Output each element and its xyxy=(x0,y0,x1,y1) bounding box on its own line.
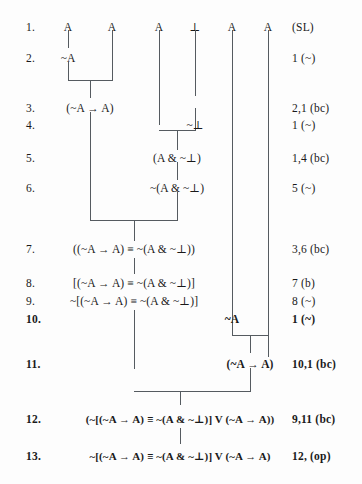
formula-10: ~A xyxy=(225,310,240,328)
formula-4: ~⊥ xyxy=(186,116,203,134)
line-number-1: 1. xyxy=(26,18,52,36)
proof-line-11: 11. (~A → A) 10,1 (bc) xyxy=(0,355,362,373)
justification-6: 5 (~) xyxy=(292,179,316,197)
formula-12: (~[(~A → A) ≡ ~(A & ~⊥)] V (~A → A)) xyxy=(86,410,275,428)
proof-line-7: 7. ((~A → A) ≡ ~(A & ~⊥)) 3,6 (bc) xyxy=(0,240,362,258)
formula-7: ((~A → A) ≡ ~(A & ~⊥)) xyxy=(73,240,195,258)
wire-l12-down xyxy=(180,391,181,405)
justification-11: 10,1 (bc) xyxy=(292,355,336,373)
line-number-13: 13. xyxy=(26,447,52,465)
formula-5: (A & ~⊥) xyxy=(153,149,201,167)
justification-2: 1 (~) xyxy=(292,49,316,67)
line-number-9: 9. xyxy=(26,292,52,310)
justification-10: 1 (~) xyxy=(292,310,315,328)
line-number-7: 7. xyxy=(26,240,52,258)
proof-line-10: 10. ~A 1 (~) xyxy=(0,310,362,328)
line-number-10: 10. xyxy=(26,310,52,328)
proof-line-6: 6. ~(A & ~⊥) 5 (~) xyxy=(0,179,362,197)
justification-3: 2,1 (bc) xyxy=(292,99,329,117)
line-number-12: 12. xyxy=(26,410,52,428)
justification-1: (SL) xyxy=(292,18,314,36)
formula-8: [(~A → A) ≡ ~(A & ~⊥)] xyxy=(73,274,195,292)
proof-line-1: 1. A A A ⊥ A A (SL) xyxy=(0,18,362,36)
wire-col1-stub xyxy=(68,30,69,48)
justification-9: 8 (~) xyxy=(292,292,316,310)
formula-9: ~[(~A → A) ≡ ~(A & ~⊥)] xyxy=(70,292,198,310)
wire-l12-to-l13 xyxy=(180,428,181,444)
proof-line-4: 4. ~⊥ 1 (~) xyxy=(0,116,362,134)
line-number-6: 6. xyxy=(26,179,52,197)
line-number-8: 8. xyxy=(26,274,52,292)
line-number-5: 5. xyxy=(26,149,52,167)
formula-6: ~(A & ~⊥) xyxy=(150,179,204,197)
justification-7: 3,6 (bc) xyxy=(292,240,329,258)
wire-l7-to-l8 xyxy=(134,258,135,274)
wire-join-l12 xyxy=(134,391,251,392)
proof-line-8: 8. [(~A → A) ≡ ~(A & ~⊥)] 7 (b) xyxy=(0,274,362,292)
line-number-2: 2. xyxy=(26,49,52,67)
line-number-11: 11. xyxy=(26,355,52,373)
proof-line-5: 5. (A & ~⊥) 1,4 (bc) xyxy=(0,149,362,167)
line-number-4: 4. xyxy=(26,116,52,134)
formula-2: ~A xyxy=(61,49,76,67)
line-number-3: 3. xyxy=(26,99,52,117)
wire-l11-down xyxy=(250,335,251,353)
proof-line-2: 2. ~A 1 (~) xyxy=(0,49,362,67)
proof-line-9: 9. ~[(~A → A) ≡ ~(A & ~⊥)] 8 (~) xyxy=(0,292,362,310)
proof-line-13: 13. ~[(~A → A) ≡ ~(A & ~⊥)] V (~A → A) 1… xyxy=(0,447,362,465)
justification-12: 9,11 (bc) xyxy=(292,410,335,428)
formula-13: ~[(~A → A) ≡ ~(A & ~⊥)] V (~A → A) xyxy=(89,447,270,465)
formula-3: (~A → A) xyxy=(66,99,113,117)
justification-5: 1,4 (bc) xyxy=(292,149,329,167)
justification-8: 7 (b) xyxy=(292,274,315,292)
proof-line-12: 12. (~[(~A → A) ≡ ~(A & ~⊥)] V (~A → A))… xyxy=(0,410,362,428)
wire-l3-down xyxy=(90,80,91,98)
wire-l7-down xyxy=(134,220,135,241)
justification-4: 1 (~) xyxy=(292,116,316,134)
justification-13: 12, (op) xyxy=(292,447,331,465)
proof-line-3: 3. (~A → A) 2,1 (bc) xyxy=(0,99,362,117)
formula-11: (~A → A) xyxy=(226,355,273,373)
proof-tree-figure: 1. A A A ⊥ A A (SL) 2. ~A 1 ( xyxy=(0,0,362,484)
